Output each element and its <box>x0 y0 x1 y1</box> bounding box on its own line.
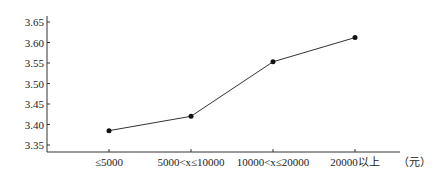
data-point <box>189 114 194 119</box>
y-tick-label: 3.45 <box>25 98 45 110</box>
x-tick-label: 20000以上 <box>330 156 380 168</box>
x-tick-label: ≤5000 <box>95 156 124 168</box>
line-chart: 3.353.403.453.503.553.603.65 ≤50005000<x… <box>0 0 441 181</box>
y-tick-label: 3.55 <box>25 57 45 69</box>
x-axis: ≤50005000<x≤1000010000<x≤2000020000以上 <box>47 149 400 168</box>
x-tick-label: 10000<x≤20000 <box>237 156 310 168</box>
y-tick-label: 3.65 <box>25 16 45 28</box>
y-axis: 3.353.403.453.503.553.603.65 <box>25 16 50 152</box>
y-tick-label: 3.50 <box>25 78 45 90</box>
data-point <box>107 128 112 133</box>
data-point <box>271 59 276 64</box>
y-tick-label: 3.60 <box>25 37 45 49</box>
x-tick-label: 5000<x≤10000 <box>157 156 225 168</box>
series-line <box>109 38 355 131</box>
y-tick-label: 3.40 <box>25 119 45 131</box>
y-tick-label: 3.35 <box>25 139 45 151</box>
x-unit-label: （元） <box>398 156 431 168</box>
data-point <box>353 35 358 40</box>
series <box>107 35 358 133</box>
